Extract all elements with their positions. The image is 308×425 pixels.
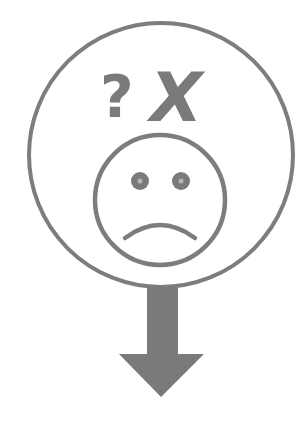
frown-mouth xyxy=(125,225,195,238)
down-arrow-icon xyxy=(119,287,204,397)
arrow-shaft xyxy=(147,287,178,356)
face-circle xyxy=(95,135,225,265)
sad-face-icon xyxy=(95,135,225,265)
left-eye-highlight xyxy=(138,179,143,184)
question-mark-icon: ? xyxy=(100,63,134,131)
arrow-head xyxy=(119,354,204,397)
x-mark-icon: X xyxy=(146,58,206,137)
right-eye-highlight xyxy=(179,179,184,184)
sad-result-illustration: ? X xyxy=(0,0,308,425)
